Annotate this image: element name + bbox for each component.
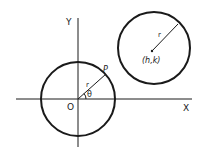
- radius-line-h-k: [152, 24, 178, 51]
- point-p-label: P: [103, 65, 108, 74]
- diagram-canvas: Y X O P r θ r (h,k): [0, 0, 209, 155]
- origin-label: O: [67, 102, 74, 112]
- angle-arc: [84, 94, 86, 100]
- y-axis-label: Y: [65, 17, 72, 27]
- radius-line-origin: [78, 74, 106, 99]
- circle-at-h-k: [118, 12, 190, 84]
- radius-label-h-k: r: [158, 31, 161, 39]
- angle-theta-label: θ: [87, 90, 92, 99]
- radius-label-origin: r: [86, 81, 89, 89]
- center-point-h-k: [151, 50, 153, 52]
- x-axis-label: X: [183, 103, 189, 113]
- center-label-h-k: (h,k): [142, 56, 161, 65]
